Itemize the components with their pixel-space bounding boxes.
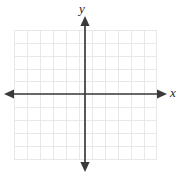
y-axis-up-arrowhead-icon	[80, 16, 89, 26]
x-axis-left-arrowhead-icon	[4, 89, 14, 98]
y-axis-down-arrowhead-icon	[80, 162, 89, 172]
coordinate-plane-figure: y x	[0, 0, 183, 173]
x-axis-label: x	[170, 86, 176, 99]
coordinate-plane-graphic	[0, 0, 183, 173]
y-axis-label: y	[79, 2, 85, 15]
x-axis-right-arrowhead-icon	[157, 89, 167, 98]
